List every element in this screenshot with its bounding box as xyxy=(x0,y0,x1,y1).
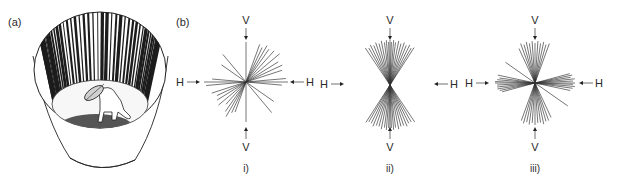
diagram-caption: ii) xyxy=(386,163,394,174)
arrow-head-down-icon xyxy=(388,36,392,40)
label-v-top: V xyxy=(242,14,250,26)
label-h-left: H xyxy=(465,77,473,89)
panel-label-b: (b) xyxy=(176,16,189,28)
diagram-caption: i) xyxy=(243,163,249,174)
diagram-caption: iii) xyxy=(530,163,540,174)
diagram-iii: VVHHiii) xyxy=(465,14,603,174)
label-v-bottom: V xyxy=(242,141,250,153)
diagram-ii: VVHHii) xyxy=(320,14,458,174)
arrow-head-up-icon xyxy=(244,127,248,131)
label-v-top: V xyxy=(531,14,539,26)
arrow-head-right-icon xyxy=(340,82,344,86)
diagram-i: VVHHi) xyxy=(176,14,314,174)
panel-label-a: (a) xyxy=(8,16,21,28)
arrow-head-down-icon xyxy=(533,36,537,40)
label-h-right: H xyxy=(306,76,314,88)
label-h-left: H xyxy=(176,76,184,88)
arrow-head-up-icon xyxy=(533,127,537,131)
orientation-diagrams: VVHHi)VVHHii)VVHHiii) xyxy=(176,14,603,174)
label-v-top: V xyxy=(386,14,394,26)
label-h-right: H xyxy=(595,77,603,89)
arrow-head-left-icon xyxy=(579,81,583,85)
label-v-bottom: V xyxy=(386,141,394,153)
drum-illustration xyxy=(33,10,168,168)
arrow-head-right-icon xyxy=(196,80,200,84)
label-v-bottom: V xyxy=(531,141,539,153)
figure-canvas: (a) (b) VVHHi)VVHHii)VVHHiii xyxy=(0,0,618,178)
orientation-line xyxy=(235,44,260,112)
arrow-head-down-icon xyxy=(244,36,248,40)
arrow-head-left-icon xyxy=(434,82,438,86)
arrow-head-left-icon xyxy=(290,80,294,84)
label-h-left: H xyxy=(320,78,328,90)
label-h-right: H xyxy=(450,78,458,90)
arrow-head-right-icon xyxy=(485,81,489,85)
